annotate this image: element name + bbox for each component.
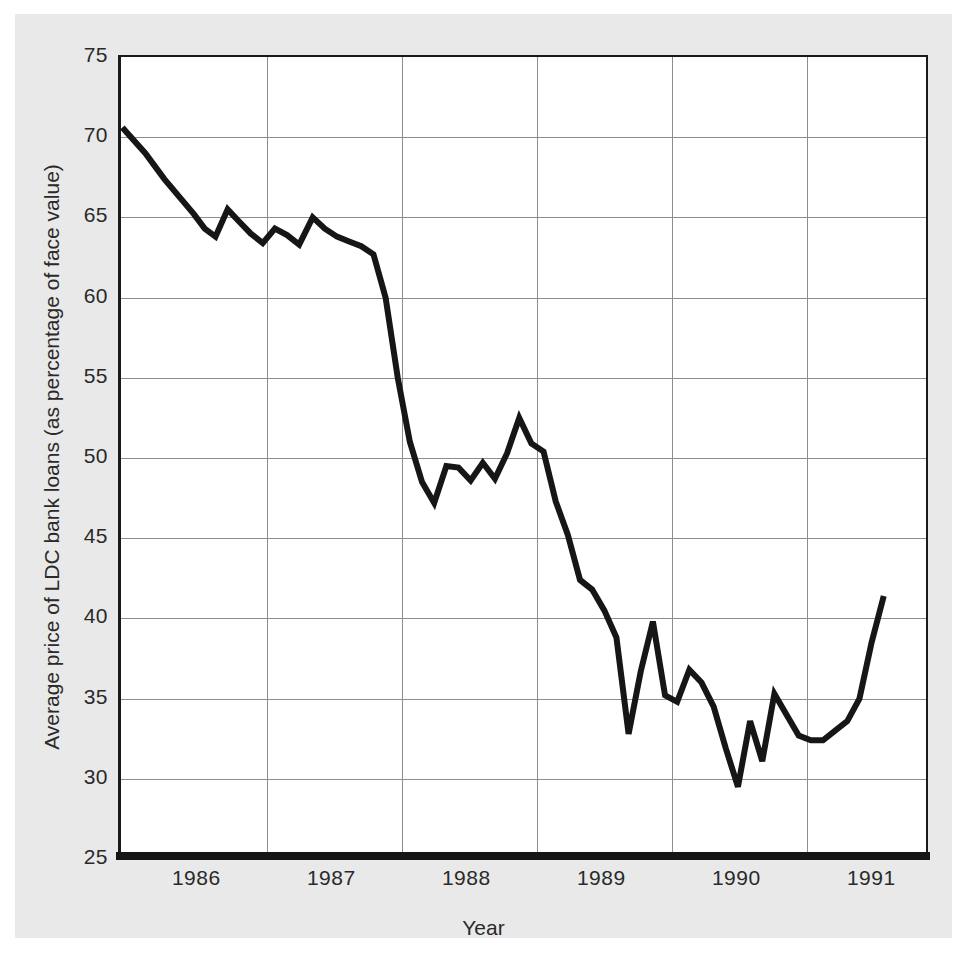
x-axis-tick-label: 1990 — [676, 866, 796, 890]
x-axis-tick-label: 1988 — [406, 866, 526, 890]
x-axis-tick-label: 1991 — [811, 866, 931, 890]
plot-area — [118, 55, 928, 857]
y-axis-label: Average price of LDC bank loans (as perc… — [40, 97, 64, 817]
x-axis-tick-label: 1989 — [541, 866, 661, 890]
x-axis-tick-label: 1986 — [136, 866, 256, 890]
x-axis-baseline — [116, 852, 930, 860]
y-axis-tick-label: 75 — [48, 43, 108, 67]
y-axis-tick-label: 25 — [48, 845, 108, 869]
chart-page: 7570656055504540353025 19861987198819891… — [0, 0, 967, 964]
x-axis-tick-label: 1987 — [271, 866, 391, 890]
x-axis-label: Year — [0, 916, 967, 940]
data-series-line — [121, 57, 931, 859]
